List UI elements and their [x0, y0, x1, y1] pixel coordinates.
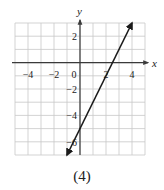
coordinate-graph: −4−20242−2−4−6 x y	[0, 0, 164, 190]
x-axis-label: x	[151, 57, 157, 69]
y-tick-label: −4	[66, 110, 77, 121]
x-tick-label: 4	[130, 69, 135, 80]
y-tick-label: 2	[72, 31, 77, 42]
axes	[12, 20, 148, 155]
figure-caption: (4)	[0, 168, 164, 185]
x-tick-label: −2	[49, 69, 60, 80]
x-tick-label: −4	[23, 69, 34, 80]
x-tick-label: 0	[72, 69, 77, 80]
y-tick-label: −2	[66, 84, 77, 95]
y-axis-label: y	[76, 5, 82, 17]
